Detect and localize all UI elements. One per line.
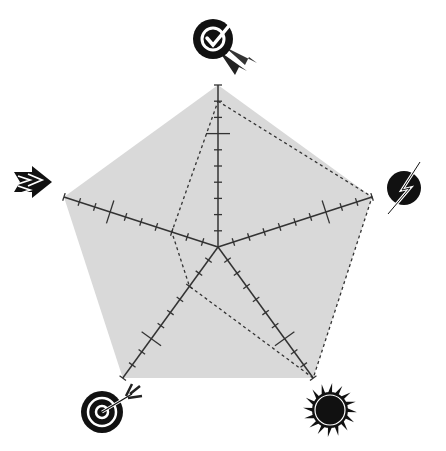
arrows-right-icon xyxy=(14,166,52,198)
lightning-circle-icon xyxy=(387,162,421,214)
radar-chart xyxy=(0,0,446,451)
sun-icon xyxy=(303,383,357,437)
badge-checkmark-icon xyxy=(193,19,257,75)
target-arrow-icon xyxy=(81,384,142,433)
